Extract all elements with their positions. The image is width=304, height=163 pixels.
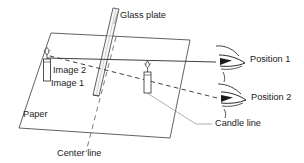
position-1-label: Position 1 xyxy=(250,54,290,64)
image-1-label: Image 1 xyxy=(51,78,84,88)
center-line-group xyxy=(86,37,116,152)
figure-container: Glass plate Image 2 Image 1 xyxy=(0,0,304,163)
object-candle xyxy=(144,61,151,93)
glass-plate-label: Glass plate xyxy=(120,10,166,20)
paper-label: Paper xyxy=(23,109,48,119)
position-2-label: Position 2 xyxy=(251,92,291,102)
leader-line xyxy=(147,93,212,124)
physics-diagram: Glass plate Image 2 Image 1 xyxy=(0,0,304,163)
image-2-label: Image 2 xyxy=(53,65,86,75)
eye-icon-position-2 xyxy=(218,84,246,118)
solid-sight-line xyxy=(47,58,216,62)
candle-line-label: Candle line xyxy=(215,118,261,128)
center-line-label: Center line xyxy=(57,148,101,158)
eye-icon-position-1 xyxy=(216,46,245,82)
